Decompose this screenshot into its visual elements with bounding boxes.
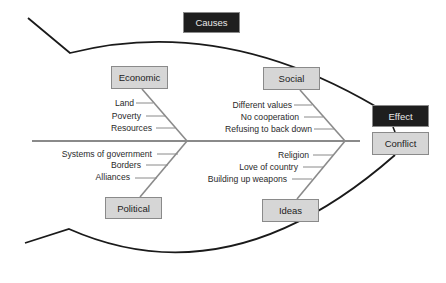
fish-outline-bottom [25, 155, 395, 252]
effect-header: Effect [372, 105, 429, 127]
cause-label: No cooperation [241, 112, 299, 122]
cause-label: Love of country [239, 162, 298, 172]
cause-label: Building up weapons [208, 174, 287, 184]
category-economic: Economic [111, 66, 168, 89]
causes-header: Causes [183, 12, 240, 33]
cause-label: Refusing to back down [225, 124, 312, 134]
cause-label: Poverty [112, 111, 141, 121]
cause-label: Alliances [96, 172, 130, 182]
cause-label: Resources [111, 123, 152, 133]
cause-label: Different values [232, 100, 292, 110]
cause-label: Borders [111, 160, 141, 170]
cause-label: Land [115, 98, 134, 108]
cause-label: Systems of government [62, 149, 152, 159]
category-ideas: Ideas [262, 199, 319, 222]
category-political: Political [105, 197, 162, 219]
effect-value: Conflict [372, 132, 429, 155]
cause-label: Religion [278, 150, 309, 160]
category-social: Social [263, 67, 320, 90]
